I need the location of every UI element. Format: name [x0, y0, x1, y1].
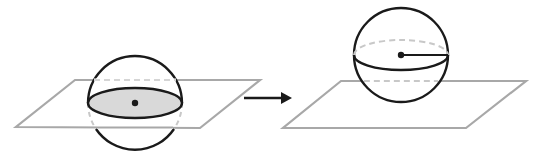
- arrow-head-icon: [281, 92, 292, 104]
- right-figure-sphere-above-plane: [283, 8, 526, 128]
- transition-arrow: [244, 92, 292, 104]
- lower-hemisphere-outline: [96, 129, 174, 150]
- center-point-left: [132, 100, 138, 106]
- diagram-svg: [0, 0, 540, 157]
- sphere-section-diagram: [0, 0, 540, 157]
- left-figure-sphere-cut-by-plane: [16, 56, 260, 150]
- plane-right: [283, 81, 526, 128]
- center-point-right: [398, 52, 404, 58]
